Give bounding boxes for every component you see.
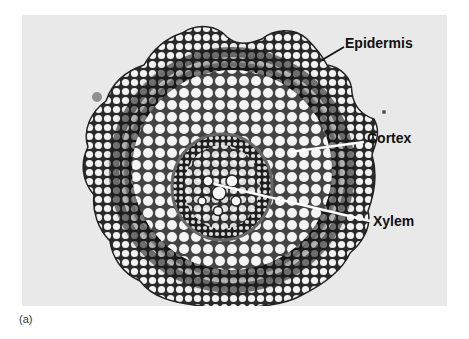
label-cortex: Cortex: [367, 130, 411, 146]
figure-caption: (a): [19, 313, 32, 325]
label-xylem: Xylem: [373, 213, 414, 229]
root-section-illustration: [22, 15, 447, 306]
micrograph-root-cross-section: Epidermis Cortex Xylem: [22, 15, 447, 306]
epidermis-leader: [322, 47, 344, 60]
label-epidermis: Epidermis: [345, 35, 413, 51]
